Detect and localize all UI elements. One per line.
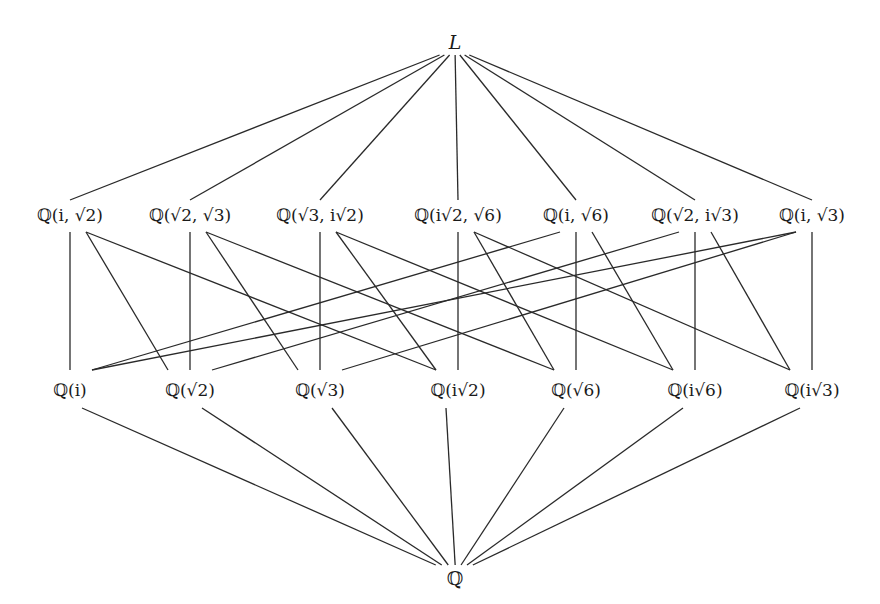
edge-Q_i_s6-Q_is6 [592,232,673,370]
edge-Q_s2-Q [202,408,442,565]
edge-L-Q_s2_s3 [190,55,444,200]
node-quartic-2: ℚ(√3, i√2) [276,207,364,224]
node-quartic-1: ℚ(√2, √3) [149,207,231,224]
node-L: L [449,33,462,52]
edge-Q_i_s2-Q_s2 [86,232,168,370]
node-quadratic-0: ℚ(i) [53,382,87,399]
edge-Q_i_s2-Q_is2 [86,232,436,370]
node-quadratic-4: ℚ(√6) [551,382,601,399]
edge-Q_s3-Q [332,408,448,565]
edge-Q_s2_is3-Q_is3 [711,232,790,370]
edge-Q_i_s3-Q_s3 [342,232,796,370]
edge-Q_s2_s3-Q_s6 [206,232,554,370]
edge-L-Q_i_s3 [469,55,812,200]
edge-L-Q_is2_s6 [455,55,458,200]
edge-Q_i_s3-Q_i [92,232,796,370]
edge-L-Q_i_s6 [460,55,576,200]
edge-Q_s6-Q [461,408,564,565]
node-quartic-5: ℚ(√2, i√3) [651,207,739,224]
node-quartic-0: ℚ(i, √2) [37,207,103,224]
node-quadratic-5: ℚ(i√6) [667,382,722,399]
node-quartic-4: ℚ(i, √6) [543,207,609,224]
node-Q: ℚ [447,569,464,588]
edge-Q_is3-Q [473,408,800,565]
node-quadratic-1: ℚ(√2) [165,382,215,399]
node-quartic-3: ℚ(i√2, √6) [414,207,502,224]
lattice-edges [0,0,880,604]
edge-Q_i-Q [82,408,436,565]
edge-L-Q_s2_is3 [465,55,695,200]
node-quadratic-2: ℚ(√3) [295,382,345,399]
edge-Q_is2_s6-Q_s6 [474,232,554,370]
edge-Q_is6-Q [467,408,683,565]
node-quartic-6: ℚ(i, √3) [779,207,845,224]
edge-Q_i_s6-Q_i [92,232,560,370]
node-quadratic-6: ℚ(i√3) [784,382,839,399]
edge-Q_is2-Q [446,408,455,565]
node-quadratic-3: ℚ(i√2) [430,382,485,399]
subfield-lattice-diagram: L ℚ(i, √2) ℚ(√2, √3) ℚ(√3, i√2) ℚ(i√2, √… [0,0,880,604]
